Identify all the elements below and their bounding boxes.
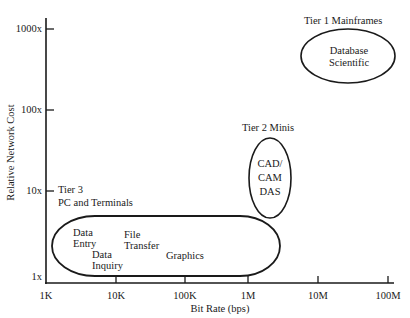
x-tick-label-100k: 100K [165, 289, 205, 302]
y-tick-label-1000x: 1000x [4, 22, 42, 35]
tier3-title-line2: PC and Terminals [58, 196, 133, 209]
tier1-app-scientific: Scientific [318, 56, 380, 69]
tier2-app-cam: CAM [250, 171, 290, 184]
x-axis-title: Bit Rate (bps) [160, 302, 280, 315]
y-tick-label-1x: 1x [4, 270, 42, 283]
tier3-app-data-inquiry-2: Inquiry [92, 259, 123, 272]
x-tick-label-1k: 1K [26, 289, 66, 302]
tier2-app-das: DAS [250, 185, 290, 198]
x-tick-label-10m: 10M [298, 289, 338, 302]
x-tick-label-1m: 1M [228, 289, 268, 302]
tier2-title: Tier 2 Minis [242, 121, 294, 134]
x-tick-label-10k: 10K [96, 289, 136, 302]
y-axis-title: Relative Network Cost [4, 83, 17, 223]
tier3-title-line1: Tier 3 [58, 183, 83, 196]
tier2-app-cad: CAD/ [250, 157, 290, 170]
tier1-title: Tier 1 Mainframes [304, 14, 382, 27]
tier3-app-graphics: Graphics [166, 249, 204, 262]
x-tick-label-100m: 100M [366, 289, 410, 302]
tier3-app-file-transfer-2: Transfer [124, 239, 159, 252]
